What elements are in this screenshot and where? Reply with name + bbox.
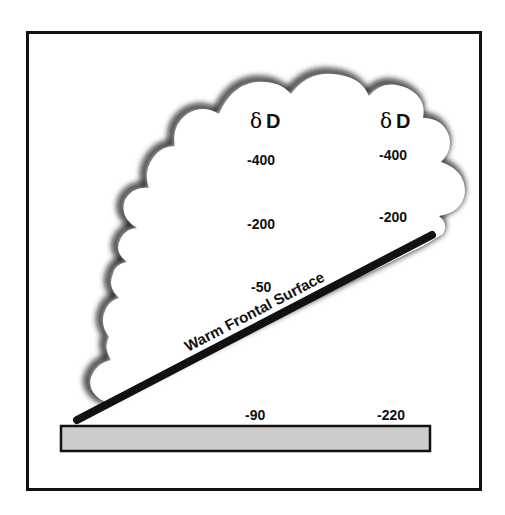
surface-value-1: -90 bbox=[245, 407, 265, 423]
column-2-value-1: -400 bbox=[379, 147, 407, 163]
surface-value-2: -220 bbox=[377, 407, 405, 423]
column-1-value-1: -400 bbox=[247, 152, 275, 168]
ground-surface bbox=[61, 426, 430, 451]
column-2-value-2: -200 bbox=[379, 209, 407, 225]
column-2-header: δD bbox=[380, 109, 411, 133]
column-1-header: δD bbox=[250, 109, 281, 133]
column-1-value-2: -200 bbox=[247, 216, 275, 232]
column-1-value-3: -50 bbox=[251, 279, 271, 295]
warm-front-diagram: Warm Frontal Surface δD δD -400 -200 -50… bbox=[0, 0, 505, 515]
